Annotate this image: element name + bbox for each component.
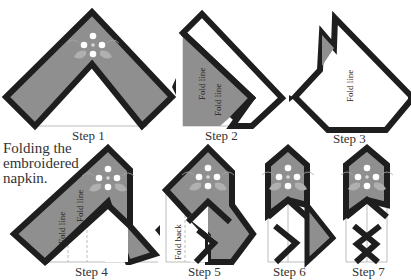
step-2-figure bbox=[172, 14, 294, 126]
fold-line-annotation: Fold line bbox=[57, 212, 67, 244]
step-1-figure bbox=[6, 12, 172, 126]
fold-line-annotation: Fold line bbox=[197, 68, 207, 100]
step-2-label: Step 2 bbox=[205, 128, 238, 144]
step-6-figure bbox=[262, 148, 333, 262]
step-6-label: Step 6 bbox=[273, 264, 306, 280]
step-3-label: Step 3 bbox=[333, 131, 366, 147]
title-line: embroidered bbox=[3, 156, 83, 171]
title-line: Folding the bbox=[3, 141, 83, 156]
fold-line-annotation: Fold line bbox=[213, 84, 223, 116]
step-1-label: Step 1 bbox=[72, 128, 105, 144]
step-7-label: Step 7 bbox=[352, 264, 385, 280]
fold-line-annotation: Fold line bbox=[75, 190, 85, 222]
title-line: napkin. bbox=[3, 171, 83, 186]
diagram-title: Folding the embroidered napkin. bbox=[3, 141, 83, 186]
fold-back-annotation: Fold back bbox=[173, 224, 183, 260]
fold-line-annotation: Fold line bbox=[345, 70, 355, 102]
step-5-label: Step 5 bbox=[188, 264, 221, 280]
step-5-figure bbox=[155, 148, 253, 262]
step-4-label: Step 4 bbox=[75, 264, 108, 280]
step-7-figure bbox=[341, 148, 393, 262]
